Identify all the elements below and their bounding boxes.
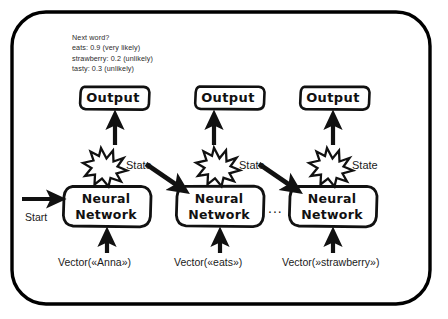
output-box-2: Output [195, 85, 261, 110]
neural-network-box-2: Neural Network [178, 183, 260, 231]
nn-label-3-line2: Network [301, 207, 363, 223]
annotation-line-1: Next word? [72, 33, 153, 43]
neural-network-box-3: Neural Network [291, 183, 373, 231]
nn-label-2-line2: Network [188, 207, 250, 223]
input-label-1: Vector(«Anna») [58, 256, 131, 268]
nn-label-1-line2: Network [75, 207, 137, 223]
next-word-annotation: Next word? eats: 0.9 (very likely) straw… [72, 33, 153, 75]
start-label: Start [25, 211, 47, 223]
input-label-2: Vector(«eats») [174, 256, 242, 268]
outer-frame [0, 0, 448, 319]
annotation-line-3: strawberry: 0.2 (unlikely) [72, 54, 153, 64]
annotation-line-2: eats: 0.9 (very likely) [72, 43, 153, 53]
output-label-3: Output [306, 90, 360, 105]
output-box-3: Output [300, 85, 366, 110]
state-label-3: State [352, 159, 378, 171]
output-box-1: Output [80, 85, 146, 110]
nn-label-3-line1: Neural [308, 191, 357, 207]
state-label-2: State [239, 159, 265, 171]
nn-label-1-line1: Neural [82, 191, 131, 207]
state-label-1: State [126, 159, 152, 171]
output-label-1: Output [86, 90, 140, 105]
output-label-2: Output [201, 90, 255, 105]
nn-label-2-line1: Neural [195, 191, 244, 207]
diagram-canvas: Next word? eats: 0.9 (very likely) straw… [0, 0, 448, 319]
continuation-ellipsis: ... [268, 200, 283, 216]
input-label-3: Vector(»strawberry») [282, 256, 379, 268]
annotation-line-4: tasty: 0.3 (unlikely) [72, 64, 153, 74]
neural-network-box-1: Neural Network [65, 183, 147, 231]
